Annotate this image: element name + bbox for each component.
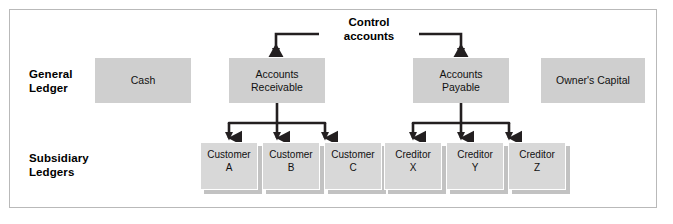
gl-box-accounts-receivable: Accounts Receivable [229,58,325,103]
sub-card-customer-b: Customer B [262,142,320,190]
card-face: Customer A [200,142,258,190]
sub-card-label: Customer A [207,148,250,174]
sub-card-label: Customer C [331,148,374,174]
sub-card-creditor-y: Creditor Y [446,142,504,190]
card-face: Customer B [262,142,320,190]
card-face: Customer C [324,142,382,190]
sub-card-customer-a: Customer A [200,142,258,190]
sub-card-customer-c: Customer C [324,142,382,190]
gl-box-owners-capital: Owner's Capital [541,58,645,103]
card-face: Creditor Z [508,142,566,190]
sub-card-label: Creditor Y [457,148,493,174]
row-label-subsidiary-ledgers: Subsidiary Ledgers [29,152,89,179]
sub-card-label: Customer B [269,148,312,174]
sub-card-label: Creditor Z [519,148,555,174]
sub-card-creditor-z: Creditor Z [508,142,566,190]
gl-box-cash: Cash [95,58,191,103]
row-label-general-ledger: General Ledger [29,68,73,95]
sub-card-label: Creditor X [395,148,431,174]
gl-box-accounts-payable: Accounts Payable [413,58,509,103]
control-accounts-label: Control accounts [318,16,420,43]
control-accounts-diagram: General Ledger Subsidiary Ledgers Cash A… [0,0,673,224]
card-face: Creditor Y [446,142,504,190]
card-face: Creditor X [384,142,442,190]
sub-card-creditor-x: Creditor X [384,142,442,190]
